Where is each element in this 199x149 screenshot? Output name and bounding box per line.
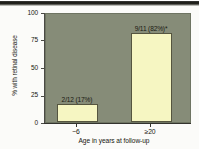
x-axis-title: Age in years at follow-up bbox=[34, 137, 194, 145]
x-axis-line bbox=[44, 123, 191, 124]
x-tick-mark-1 bbox=[76, 124, 77, 127]
bar-label-category-1: 2/12 (17%) bbox=[45, 96, 109, 103]
y-tick-label-0: 0 bbox=[4, 120, 38, 127]
bar-category-2 bbox=[131, 33, 172, 122]
y-tick-label-100: 100 bbox=[4, 10, 38, 17]
y-tick-label-50: 50 bbox=[4, 65, 38, 72]
bar-label-category-2: 9/11 (82%)* bbox=[119, 25, 183, 32]
bar-category-1 bbox=[57, 104, 98, 122]
x-tick-label-2: ≥20 bbox=[125, 128, 175, 136]
x-tick-label-1: ~6 bbox=[51, 128, 101, 136]
y-axis-title: % with retinal disease bbox=[11, 21, 18, 111]
y-tick-label-75: 75 bbox=[4, 37, 38, 44]
figure-canvas: 100 75 50 25 0 % with retinal disease 2/… bbox=[0, 0, 199, 149]
y-tick-label-25: 25 bbox=[4, 92, 38, 99]
page-edge-band bbox=[0, 0, 199, 6]
x-tick-mark-2 bbox=[150, 124, 151, 127]
